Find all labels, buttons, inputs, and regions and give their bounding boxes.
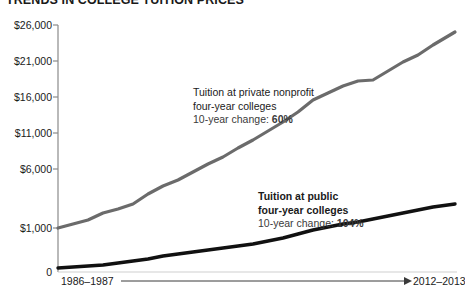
annotation-private-nonprofit: Tuition at private nonprofit four-year c… [193, 86, 314, 127]
arrow-right-icon [404, 277, 412, 285]
annotation-private-change-value: 60% [272, 113, 293, 125]
series-line-public [58, 204, 455, 268]
series-line-private-nonprofit [58, 32, 455, 228]
x-tick-label-end: 2012–2013 [413, 275, 465, 287]
chart-page: TRENDS IN COLLEGE TUITION PRICES $26,000… [0, 0, 465, 295]
annotation-private-line1: Tuition at private nonprofit [193, 86, 314, 100]
annotation-private-line2: four-year colleges [193, 100, 314, 114]
annotation-private-change-prefix: 10-year change: [193, 113, 272, 125]
annotation-public-change-prefix: 10-year change: [258, 217, 337, 229]
y-axis-ticks [53, 25, 58, 228]
annotation-public-line1: Tuition at public [258, 190, 364, 204]
annotation-private-change: 10-year change: 60% [193, 113, 314, 127]
x-tick-label-start: 1986–1987 [61, 275, 114, 287]
annotation-public: Tuition at public four-year colleges 10-… [258, 190, 364, 231]
chart-plot-area [0, 0, 465, 295]
annotation-public-change: 10-year change: 104% [258, 217, 364, 231]
annotation-public-change-value: 104% [337, 217, 364, 229]
annotation-public-line2: four-year colleges [258, 204, 364, 218]
